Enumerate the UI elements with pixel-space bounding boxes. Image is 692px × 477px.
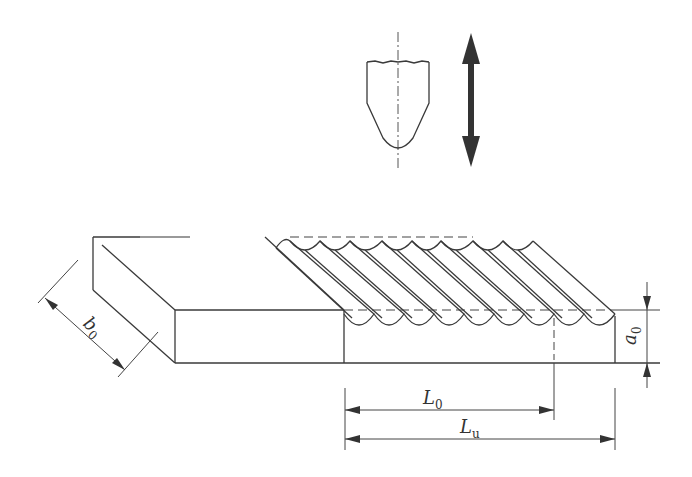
Lu-subscript: u [472, 427, 480, 441]
Lu-label: L [459, 416, 472, 437]
tool-break-line [367, 61, 429, 63]
specimen-bar [93, 237, 660, 363]
L0-label: L [422, 387, 435, 408]
a0-dimension: a 0 [619, 282, 651, 388]
indenter-tool [367, 32, 429, 168]
double-arrow-icon [462, 33, 480, 167]
specimen-diagram: b 0 a 0 L 0 L u [0, 0, 692, 477]
length-dimensions: L 0 L u [345, 318, 615, 450]
a0-subscript: 0 [630, 326, 644, 334]
b0-dimension: b 0 [38, 260, 158, 377]
a0-label: a [619, 334, 640, 345]
L0-subscript: 0 [435, 398, 443, 412]
